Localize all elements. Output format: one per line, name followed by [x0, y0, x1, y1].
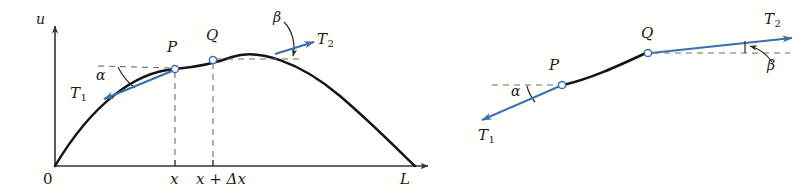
tension-label-T1-right-base: T	[478, 126, 488, 144]
tension-vector-T1-right	[482, 86, 560, 120]
point-label-P-left: P	[167, 40, 177, 55]
x-tick-label: x	[170, 172, 178, 187]
tension-label-T2-left-sub: 2	[327, 38, 334, 49]
tension-label-T1-right: T1	[478, 126, 495, 145]
x-delta-tick-label: x + Δx	[196, 172, 246, 187]
length-L-label: L	[400, 172, 410, 187]
string-element-curve	[563, 53, 646, 85]
u-axis-label: u	[36, 12, 45, 26]
origin-label: 0	[43, 172, 53, 187]
tension-label-T2-left-base: T	[317, 30, 327, 48]
tension-label-T2-left: T2	[317, 30, 334, 49]
alpha-label-left: α	[96, 68, 105, 82]
tension-label-T1-left-base: T	[70, 84, 80, 102]
point-marker-P-left	[171, 65, 178, 72]
tension-label-T1-left-sub: 1	[80, 92, 87, 103]
tension-vector-T2-right	[651, 38, 792, 53]
p-horizontal-dashed-line	[98, 66, 172, 68]
beta-label-left: β	[273, 10, 281, 24]
tension-label-T1-right-sub: 1	[488, 134, 495, 145]
point-label-Q-left: Q	[206, 28, 218, 43]
alpha-label-right: α	[511, 84, 520, 98]
tension-label-T2-right: T2	[764, 10, 781, 29]
right-panel-group	[482, 38, 792, 120]
point-marker-P-right	[558, 81, 565, 88]
tension-vector-T1-left	[104, 71, 172, 99]
tension-label-T1-left: T1	[70, 84, 87, 103]
figure-canvas	[0, 0, 809, 196]
left-panel-group	[55, 22, 428, 166]
point-label-P-right: P	[549, 58, 559, 73]
point-marker-Q-left	[209, 56, 216, 63]
point-label-Q-right: Q	[641, 26, 653, 41]
figure-container: u 0 x x + Δx L P Q α β T1 T2 P Q α β T1 …	[0, 0, 809, 196]
beta-label-right: β	[767, 58, 775, 72]
tension-label-T2-right-base: T	[764, 10, 774, 28]
string-curve	[55, 54, 415, 166]
tension-vector-T2-left	[275, 42, 314, 54]
point-marker-Q-right	[644, 49, 651, 56]
tension-label-T2-right-sub: 2	[774, 18, 781, 29]
